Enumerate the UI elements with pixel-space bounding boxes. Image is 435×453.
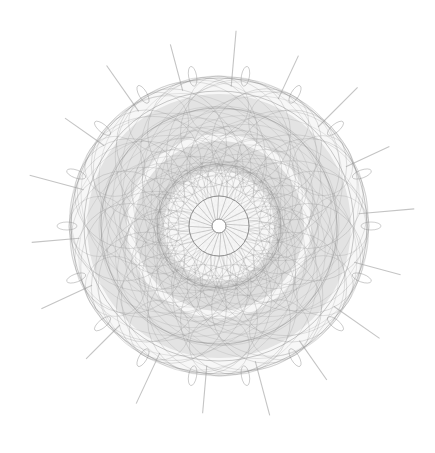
center-hub: [189, 196, 249, 256]
rosette-artwork: [0, 0, 435, 453]
rosette-svg: [0, 0, 435, 453]
